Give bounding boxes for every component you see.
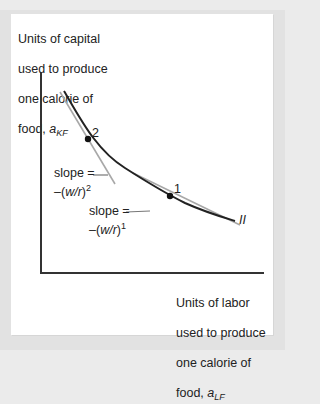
x-label-line3: one calorie of [176,356,286,371]
point-1-label: 1 [174,182,181,196]
x-axis-label: Units of labor used to produce one calor… [176,281,286,404]
x-subscript: LF [214,392,225,402]
x-label-line4: food, aLF [176,386,286,404]
x-label-line2: used to produce [176,326,286,341]
curve-label: II [239,213,246,227]
slope-annotation-1: slope = –(w/r)1 [89,204,130,238]
isoquant-curve [64,91,235,221]
point-2-label: 2 [92,126,99,140]
x-label-line1: Units of labor [176,296,286,311]
point-1-marker [167,193,173,199]
slope-annotation-2: slope = –(w/r)2 [54,166,95,200]
point-2-marker [85,136,91,142]
